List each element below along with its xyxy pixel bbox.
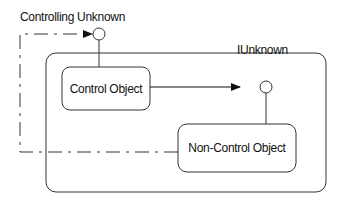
control-object-node: Control Object: [62, 67, 150, 110]
control-object-label: Control Object: [70, 82, 143, 96]
controlling-unknown-interface-icon: [93, 28, 105, 40]
aggregation-diagram: Controlling Unknown Control Object IUnkn…: [0, 0, 343, 202]
iunknown-label: IUnknown: [237, 43, 288, 57]
iunknown-interface-icon: [260, 81, 272, 93]
controlling-unknown-label: Controlling Unknown: [20, 10, 125, 24]
non-control-object-label: Non-Control Object: [188, 141, 286, 155]
non-control-object-node: Non-Control Object: [178, 124, 296, 172]
